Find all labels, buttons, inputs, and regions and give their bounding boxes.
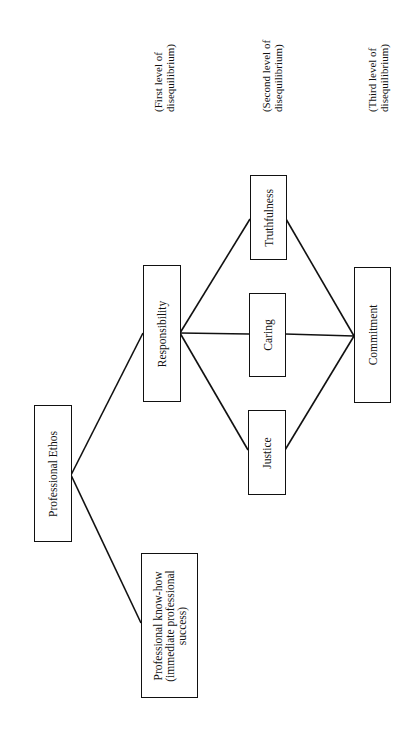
edge-ethos-responsibility	[71, 333, 143, 475]
knowhow-line2: (immediate professional	[164, 570, 176, 681]
node-responsibility-label: Responsibility	[156, 300, 168, 366]
level-label-third-line1: (Third level of	[366, 44, 378, 112]
node-professional-knowhow-label: Professional know-how (immediate profess…	[152, 570, 188, 681]
knowhow-line1: Professional know-how	[152, 570, 164, 681]
level-label-second: (Second level of disequilibrium)	[256, 35, 288, 117]
diagram-canvas: (First level of disequilibrium) (Second …	[0, 0, 418, 740]
node-responsibility: Responsibility	[143, 265, 181, 402]
edge-responsibility-truthfulness	[180, 219, 250, 333]
node-professional-ethos: Professional Ethos	[34, 405, 72, 542]
level-label-third-line2: disequilibrium)	[378, 44, 390, 112]
node-commitment: Commitment	[354, 267, 391, 403]
node-professional-ethos-label: Professional Ethos	[47, 431, 59, 517]
node-truthfulness-label: Truthfulness	[263, 189, 275, 247]
level-label-first: (First level of disequilibrium)	[148, 38, 180, 118]
node-justice-label: Justice	[261, 437, 273, 468]
node-justice: Justice	[248, 410, 286, 495]
node-commitment-label: Commitment	[367, 305, 379, 366]
node-caring-label: Caring	[262, 319, 274, 350]
edge-justice-commitment	[285, 336, 354, 450]
level-label-first-line2: disequilibrium)	[164, 44, 176, 112]
level-label-third: (Third level of disequilibrium)	[362, 38, 394, 118]
level-label-first-line1: (First level of	[152, 44, 164, 112]
level-label-second-line1: (Second level of	[260, 40, 272, 112]
edge-truthfulness-commitment	[286, 219, 354, 336]
knowhow-line3: success)	[176, 570, 188, 681]
node-truthfulness: Truthfulness	[250, 175, 287, 260]
edge-ethos-knowhow	[71, 475, 141, 623]
level-label-second-line2: disequilibrium)	[272, 40, 284, 112]
node-caring: Caring	[249, 293, 286, 377]
node-professional-knowhow: Professional know-how (immediate profess…	[141, 553, 198, 698]
edge-caring-commitment	[285, 334, 354, 336]
edge-responsibility-caring	[180, 333, 249, 334]
edge-responsibility-justice	[180, 333, 248, 450]
